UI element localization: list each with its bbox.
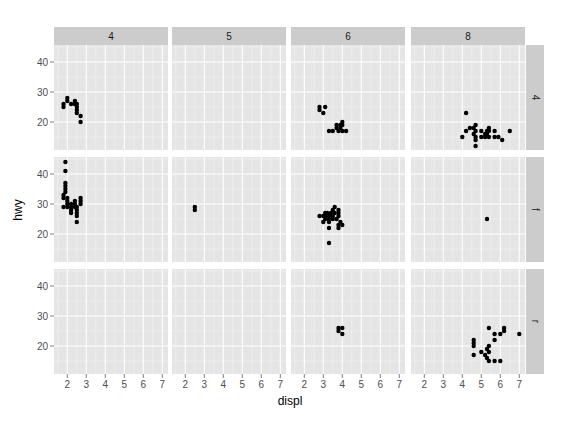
data-point (492, 359, 496, 363)
y-tick-label: 40 (37, 57, 49, 68)
data-point (508, 129, 512, 133)
data-point (323, 105, 327, 109)
x-tick-label: 6 (259, 379, 265, 390)
panel-background (172, 157, 286, 262)
data-point (517, 332, 521, 336)
data-point (317, 108, 321, 112)
x-tick-label: 2 (183, 379, 189, 390)
data-point (331, 217, 335, 221)
data-point (75, 214, 79, 218)
data-point (61, 105, 65, 109)
data-point (65, 99, 69, 103)
data-point (63, 169, 67, 173)
data-point (492, 135, 496, 139)
x-tick-label: 4 (221, 379, 227, 390)
x-tick-label: 6 (378, 379, 384, 390)
data-point (317, 214, 321, 218)
x-tick-label: 3 (202, 379, 208, 390)
panel-f-4 (54, 157, 168, 262)
panel-f-5 (172, 157, 286, 262)
x-axis-title: displ (278, 394, 303, 408)
data-point (65, 202, 69, 206)
data-point (63, 190, 67, 194)
x-tick-label: 6 (141, 379, 147, 390)
data-point (473, 138, 477, 142)
x-tick-label: 3 (441, 379, 447, 390)
data-point (327, 241, 331, 245)
data-point (78, 120, 82, 124)
panel-background (54, 45, 168, 150)
data-point (479, 350, 483, 354)
panel-background (172, 45, 286, 150)
data-point (61, 205, 65, 209)
data-point (336, 329, 340, 333)
data-point (327, 220, 331, 224)
data-point (340, 332, 344, 336)
data-point (78, 114, 82, 118)
data-point (327, 226, 331, 230)
panel-f-6 (291, 157, 405, 262)
data-point (464, 111, 468, 115)
data-point (78, 196, 82, 200)
x-tick-label: 3 (84, 379, 90, 390)
data-point (75, 208, 79, 212)
row-strip-4: 4 (526, 45, 544, 150)
data-point (75, 111, 79, 115)
y-tick-label: 30 (37, 311, 49, 322)
x-tick-label: 2 (302, 379, 308, 390)
x-tick-label: 7 (517, 379, 523, 390)
data-point (496, 135, 500, 139)
panel-r-5 (172, 269, 286, 374)
data-point (333, 205, 337, 209)
column-strip-5: 5 (172, 27, 286, 45)
y-tick-label: 40 (37, 169, 49, 180)
data-point (487, 326, 491, 330)
data-point (321, 220, 325, 224)
x-tick-label: 5 (359, 379, 365, 390)
data-point (460, 135, 464, 139)
data-point (65, 196, 69, 200)
panel-4-8 (411, 45, 525, 150)
data-point (69, 202, 73, 206)
x-tick-label: 2 (422, 379, 428, 390)
panel-background (172, 269, 286, 374)
data-point (502, 329, 506, 333)
data-point (325, 211, 329, 215)
panel-background (54, 269, 168, 374)
data-point (338, 220, 342, 224)
y-tick-label: 30 (37, 199, 49, 210)
data-point (331, 129, 335, 133)
data-point (193, 208, 197, 212)
x-tick-label: 3 (321, 379, 327, 390)
data-point (485, 217, 489, 221)
y-tick-label: 20 (37, 341, 49, 352)
x-tick-label: 7 (160, 379, 166, 390)
x-tick-label: 2 (65, 379, 71, 390)
facet-scatter-plot: 45684fr203040203040203040234567234567234… (0, 0, 569, 430)
data-point (479, 129, 483, 133)
panel-background (411, 157, 525, 262)
data-point (344, 129, 348, 133)
x-tick-label: 5 (240, 379, 246, 390)
y-axis-title: hwy (11, 199, 25, 220)
data-point (336, 129, 340, 133)
data-point (69, 102, 73, 106)
x-tick-label: 7 (397, 379, 403, 390)
row-strip-r: r (526, 269, 544, 374)
x-tick-label: 4 (103, 379, 109, 390)
data-point (498, 359, 502, 363)
row-strip-label: f (530, 208, 541, 211)
panel-r-6 (291, 269, 405, 374)
chart-canvas: 45684fr203040203040203040234567234567234… (0, 0, 569, 430)
data-point (468, 126, 472, 130)
y-tick-label: 40 (37, 281, 49, 292)
column-strip-label: 4 (108, 31, 114, 42)
data-point (73, 199, 77, 203)
data-point (340, 120, 344, 124)
data-point (340, 326, 344, 330)
column-strip-label: 5 (226, 31, 232, 42)
data-point (472, 344, 476, 348)
column-strip-label: 6 (345, 31, 351, 42)
data-point (487, 359, 491, 363)
panel-r-8 (411, 269, 525, 374)
